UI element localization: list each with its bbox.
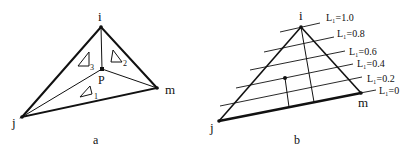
- vertex-i-label: i: [98, 9, 102, 24]
- delta-3-icon: 3: [78, 52, 94, 72]
- point-p-label: P: [98, 73, 105, 87]
- svg-text:2: 2: [123, 59, 127, 68]
- point-p-dot: [100, 67, 104, 71]
- diagram-canvas: i j m P 3 2 1 a: [0, 0, 413, 158]
- vertex-i-dot-b: [299, 25, 303, 29]
- svg-text:1: 1: [94, 92, 98, 101]
- level-line-0.8: [264, 37, 334, 52]
- point-dot-b: [283, 76, 287, 80]
- svg-text:3: 3: [90, 63, 94, 72]
- vertex-m-label: m: [165, 82, 175, 97]
- vertex-j-label: j: [11, 115, 16, 130]
- level-line-0.2: [220, 77, 362, 106]
- figure-a: i j m P 3 2 1 a: [11, 9, 175, 147]
- vertex-j-dot-b: [217, 119, 221, 123]
- level-label-1.0: L₁=1.0: [326, 12, 354, 23]
- level-labels: L₁=1.0 L₁=0.8 L₁=0.6 L₁=0.4 L₁=0.2 L₁=0: [326, 12, 399, 96]
- triangle-ijm: [22, 27, 157, 117]
- vertex-j-label-b: j: [209, 120, 214, 135]
- vertex-j-dot: [20, 115, 24, 119]
- delta-1-icon: 1: [80, 86, 98, 101]
- level-line-0.4: [236, 64, 353, 88]
- figure-b-caption: b: [294, 133, 300, 147]
- level-label-0.8: L₁=0.8: [337, 28, 365, 39]
- level-label-0.6: L₁=0.6: [349, 46, 377, 57]
- vertex-i-label-b: i: [299, 8, 303, 23]
- line-i-p: [101, 27, 102, 69]
- vertex-i-dot: [99, 25, 103, 29]
- level-label-0: L₁=0: [379, 85, 399, 96]
- vertex-m-dot: [155, 86, 159, 90]
- line-j-p: [22, 69, 102, 117]
- vertex-m-label-b: m: [358, 95, 368, 110]
- level-label-0.2: L₁=0.2: [367, 73, 395, 84]
- level-label-0.4: L₁=0.4: [357, 58, 385, 69]
- figure-a-caption: a: [93, 133, 99, 147]
- figure-b: i j m L₁=1.0 L₁=0.8 L₁=0.6 L₁=0.4 L₁=0.2…: [209, 8, 399, 147]
